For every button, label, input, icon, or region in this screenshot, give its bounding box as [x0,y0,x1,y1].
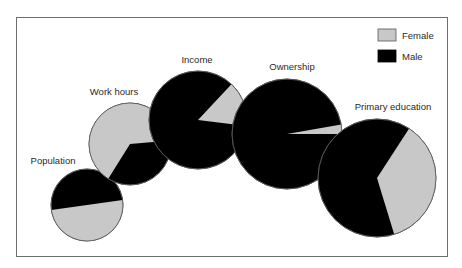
pie-label-income: Income [181,54,212,65]
pie-income [149,71,247,169]
legend-label-male: Male [402,51,423,62]
pie-label-ownership: Ownership [269,61,314,72]
pie-label-work-hours: Work hours [90,86,139,97]
pie-chart: PopulationWork hoursIncomeOwnershipPrima… [0,0,462,268]
legend-label-female: Female [402,30,434,41]
pie-primary-education [318,119,436,237]
legend-swatch-male [378,50,396,62]
pie-label-primary-education: Primary education [355,101,432,112]
pie-label-population: Population [31,155,76,166]
legend-swatch-female [378,29,396,41]
legend: Female Male [378,29,434,62]
